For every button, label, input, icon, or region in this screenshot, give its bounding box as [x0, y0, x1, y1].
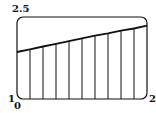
riemann-sum-chart: [0, 0, 156, 113]
y-max-label: 2.5: [12, 4, 29, 14]
x-min-label: 0: [14, 101, 21, 111]
x-max-label: 2: [149, 94, 156, 104]
